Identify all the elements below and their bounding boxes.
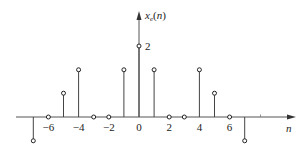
x-axis-arrow-icon <box>287 115 296 120</box>
stem-marker <box>243 139 247 143</box>
stem-marker <box>182 115 186 119</box>
stem-marker <box>31 139 35 143</box>
y-axis-arrow-icon <box>137 11 142 20</box>
stem-marker <box>228 115 232 119</box>
x-tick-label: −2 <box>103 121 115 133</box>
stem-marker <box>122 68 126 72</box>
x-tick-label: −6 <box>43 121 55 133</box>
x-tick-label: 6 <box>227 121 233 133</box>
stem-marker <box>92 115 96 119</box>
stem-marker <box>213 91 217 95</box>
x-axis-label: n <box>286 122 292 134</box>
x-tick-label: 4 <box>197 121 203 133</box>
x-tick-labels: −6−4−20246 <box>43 121 233 133</box>
value-annotation: 2 <box>145 40 151 52</box>
y-axis-label: xe(n) <box>144 9 166 23</box>
stem-marker <box>46 115 50 119</box>
x-tick-label: 0 <box>136 121 142 133</box>
stem-marker <box>152 68 156 72</box>
x-tick-label: −4 <box>73 121 85 133</box>
stem-marker <box>107 115 111 119</box>
stem-plot: xe(n) n 2 −6−4−20246 <box>0 0 307 157</box>
stem-marker <box>167 115 171 119</box>
stem-marker <box>77 68 81 72</box>
x-tick-label: 2 <box>166 121 172 133</box>
stem-marker <box>137 44 141 48</box>
stem-marker <box>62 91 66 95</box>
stem-marker <box>197 68 201 72</box>
